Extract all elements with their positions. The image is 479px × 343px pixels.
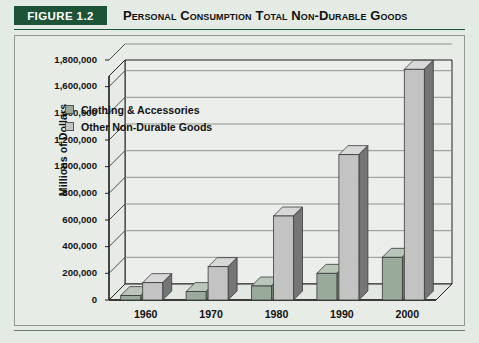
legend-swatch-icon (65, 122, 74, 131)
chart-panel: Millions of Dollars 0200,000400,000600,0… (14, 35, 465, 326)
legend-item-label: Clothing & Accessories (81, 104, 200, 116)
figure-header: FIGURE 1.2 Personal Consumption Total No… (0, 0, 479, 30)
legend-item: Other Non-Durable Goods (65, 119, 212, 134)
x-axis-tick-label: 1960 (116, 308, 176, 320)
y-axis-tick-label: 400,000 (23, 240, 97, 251)
x-axis-tick-label: 1980 (247, 308, 307, 320)
y-axis-tick-label: 800,000 (23, 187, 97, 198)
y-axis-tick-label: 200,000 (23, 267, 97, 278)
footer-divider-rule (14, 330, 465, 331)
chart-legend: Clothing & AccessoriesOther Non-Durable … (65, 102, 212, 136)
y-axis-tick-label: 1,600,000 (23, 80, 97, 91)
figure-title: Personal Consumption Total Non-Durable G… (123, 6, 407, 25)
x-axis-tick-label: 2000 (377, 308, 437, 320)
y-axis-tick-label: 600,000 (23, 214, 97, 225)
x-axis-tick-label: 1970 (181, 308, 241, 320)
figure-number-badge: FIGURE 1.2 (14, 6, 107, 25)
legend-item-label: Other Non-Durable Goods (81, 121, 212, 133)
y-axis-tick-label: 0 (23, 294, 97, 305)
y-axis-tick-label: 1,800,000 (23, 54, 97, 65)
y-axis-tick-label: 1,000,000 (23, 160, 97, 171)
legend-swatch-icon (65, 105, 74, 114)
header-divider-rule (14, 29, 465, 31)
legend-item: Clothing & Accessories (65, 102, 212, 117)
x-axis-tick-label: 1990 (312, 308, 372, 320)
